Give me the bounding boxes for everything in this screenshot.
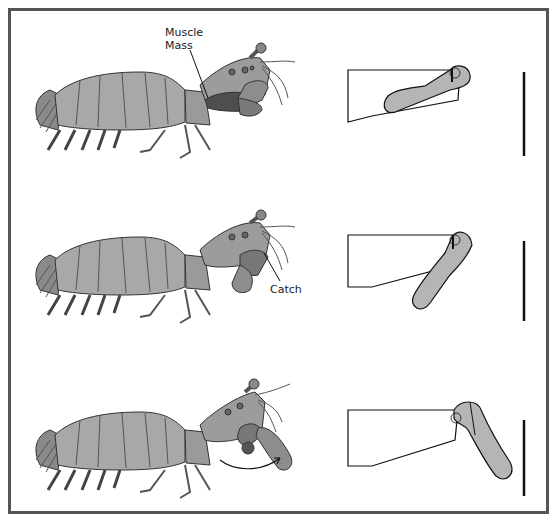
schematic-diagram-1 bbox=[330, 0, 550, 170]
strike-arrow bbox=[220, 458, 280, 469]
stage-2-panel: Catch bbox=[0, 165, 558, 335]
catch-leader-line bbox=[0, 165, 300, 335]
mantis-shrimp-illustration-3 bbox=[0, 340, 320, 510]
stage-3-panel bbox=[0, 340, 558, 510]
muscle-mass-leader-line bbox=[0, 0, 300, 170]
schematic-diagram-3 bbox=[330, 340, 550, 510]
stage-1-panel: Muscle Mass bbox=[0, 0, 558, 170]
schematic-diagram-2 bbox=[330, 165, 550, 335]
